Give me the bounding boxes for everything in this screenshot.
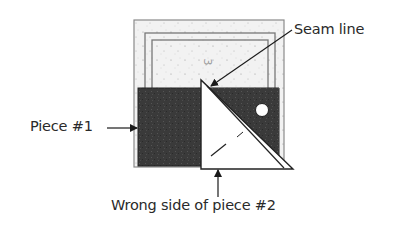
seam-line-label: Seam line: [294, 21, 364, 37]
circle-motif: [256, 104, 269, 117]
wrong-side-label: Wrong side of piece #2: [111, 197, 276, 213]
piece1-label: Piece #1: [30, 118, 93, 134]
piece-1: [138, 88, 202, 166]
block-marking: 3: [201, 59, 214, 66]
